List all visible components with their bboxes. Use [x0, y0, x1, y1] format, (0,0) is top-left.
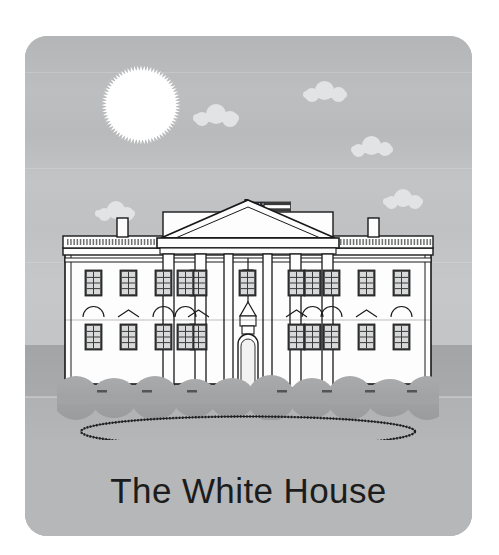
cloud-3: [303, 81, 347, 98]
baluster: [128, 239, 130, 245]
baluster: [417, 239, 419, 245]
chimney-right: [368, 218, 379, 237]
chimney-left: [117, 218, 128, 237]
baluster: [372, 239, 374, 245]
baluster: [356, 239, 358, 245]
baluster: [121, 239, 123, 245]
bush-shadow: [322, 390, 332, 393]
window: [85, 270, 102, 296]
window: [177, 324, 194, 350]
baluster: [96, 239, 98, 245]
baluster: [67, 239, 69, 245]
baluster: [86, 239, 88, 245]
hedge-base: [57, 394, 439, 404]
window: [323, 270, 340, 296]
baluster: [382, 239, 384, 245]
baluster: [346, 239, 348, 245]
baluster: [410, 239, 412, 245]
window: [393, 270, 410, 296]
baluster: [73, 239, 75, 245]
baluster: [343, 239, 345, 245]
bush-shadow: [187, 390, 197, 393]
sky-band: [25, 168, 472, 169]
window: [393, 324, 410, 350]
baluster: [420, 239, 422, 245]
baluster: [350, 239, 352, 245]
baluster: [388, 239, 390, 245]
baluster: [105, 239, 107, 245]
window: [288, 324, 305, 350]
window: [323, 324, 340, 350]
baluster: [385, 239, 387, 245]
sun-icon: [96, 60, 186, 150]
window: [155, 324, 172, 350]
baluster: [93, 239, 95, 245]
baluster: [99, 239, 101, 245]
baluster: [83, 239, 85, 245]
window: [120, 270, 137, 296]
bush-shadow: [407, 390, 417, 393]
window: [177, 270, 194, 296]
baluster: [89, 239, 91, 245]
window: [304, 270, 321, 296]
baluster: [125, 239, 127, 245]
baluster: [340, 239, 342, 245]
bush-shadow: [365, 390, 375, 393]
window: [358, 270, 375, 296]
cloud-2: [193, 104, 239, 122]
baluster: [137, 239, 139, 245]
window: [239, 270, 256, 296]
baluster: [398, 239, 400, 245]
baluster: [359, 239, 361, 245]
baluster: [394, 239, 396, 245]
bush-shadow: [142, 390, 152, 393]
cloud-lump: [378, 142, 392, 156]
baluster: [375, 239, 377, 245]
page-title: The White House: [25, 473, 472, 508]
baluster: [378, 239, 380, 245]
baluster: [144, 239, 146, 245]
baluster: [391, 239, 393, 245]
baluster: [141, 239, 143, 245]
baluster: [150, 239, 152, 245]
baluster: [401, 239, 403, 245]
bush-shadow: [277, 390, 287, 393]
baluster: [366, 239, 368, 245]
sky-band: [25, 72, 472, 73]
screenshot-root: The White House: [0, 0, 499, 555]
baluster: [134, 239, 136, 245]
baluster: [131, 239, 133, 245]
baluster: [115, 239, 117, 245]
bush-shadow: [97, 390, 107, 393]
baluster: [407, 239, 409, 245]
baluster: [112, 239, 114, 245]
baluster: [147, 239, 149, 245]
baluster: [353, 239, 355, 245]
baluster: [80, 239, 82, 245]
window: [288, 270, 305, 296]
window: [304, 324, 321, 350]
baluster: [77, 239, 79, 245]
baluster: [426, 239, 428, 245]
cloud-lump: [222, 111, 238, 127]
baluster: [404, 239, 406, 245]
baluster: [153, 239, 155, 245]
baluster: [369, 239, 371, 245]
baluster: [430, 239, 432, 245]
baluster: [118, 239, 120, 245]
baluster: [362, 239, 364, 245]
portico-architrave: [160, 248, 336, 254]
cloud-4: [351, 136, 393, 153]
portico-entablature: [157, 238, 339, 248]
window: [85, 324, 102, 350]
window: [155, 270, 172, 296]
window: [358, 324, 375, 350]
window: [120, 324, 137, 350]
white-house-building: [57, 198, 439, 420]
baluster: [414, 239, 416, 245]
cloud-lump: [331, 87, 346, 102]
baluster: [102, 239, 104, 245]
baluster: [70, 239, 72, 245]
baluster: [109, 239, 111, 245]
white-house-illustration-card: The White House: [25, 36, 472, 536]
